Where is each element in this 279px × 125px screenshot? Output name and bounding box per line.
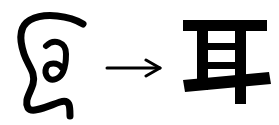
character-ear bbox=[183, 20, 271, 104]
ear-pictograph-icon bbox=[0, 0, 100, 125]
right-arrow-icon bbox=[104, 58, 164, 78]
evolution-diagram: 耳 bbox=[0, 0, 279, 125]
